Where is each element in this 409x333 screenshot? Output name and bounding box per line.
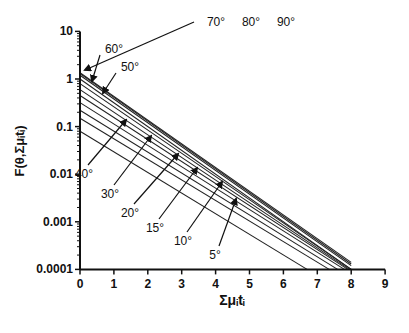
y-tick-label: 10 [60,24,74,38]
series-line [80,73,351,263]
y-tick-label: 1 [66,72,73,86]
x-tick-label: 8 [348,277,355,291]
series-line [80,74,351,264]
angle-label: 60° [105,42,123,56]
series-line [80,79,351,269]
series-line [80,75,351,265]
angle-annotations: 70°80°90°60°50°40°30°20°15°10°5° [75,15,295,262]
x-tick-label: 3 [178,277,185,291]
angle-label: 40° [75,167,93,181]
y-tick-label: 0.01 [50,167,74,181]
x-tick-label: 9 [382,277,389,291]
angle-label: 50° [121,60,139,74]
x-tick-label: 2 [144,277,151,291]
arrow-icon [219,199,236,246]
x-tick-label: 1 [111,277,118,291]
x-tick-label: 0 [77,277,84,291]
x-axis-label: Σμᵢtᵢ [219,292,245,308]
angle-label: 10° [174,234,192,248]
arrow-icon [187,182,222,232]
x-tick-label: 4 [212,277,219,291]
y-tick-label: 0.1 [56,120,73,134]
arrow-icon [92,55,100,81]
series-lines [80,73,351,270]
series-line [80,96,348,270]
x-tick-label: 7 [314,277,321,291]
arrow-icon [85,22,194,70]
arrow-icon [159,168,197,219]
y-tick-label: 0.0001 [36,262,73,276]
attenuation-chart: 01234567890.00010.0010.010.1110 70°80°90… [0,0,409,333]
angle-label: 30° [101,187,119,201]
y-axis-label: F(θ,Σμᵢtᵢ) [12,126,27,177]
angle-label: 15° [146,221,164,235]
angle-label: 5° [209,248,221,262]
series-line [80,90,350,270]
angle-label: 20° [121,206,139,220]
angle-label: 70° [207,15,225,29]
angle-label: 90° [277,15,295,29]
arrow-icon [134,154,178,204]
angle-label: 80° [242,15,260,29]
arrow-icon [103,73,116,93]
x-tick-label: 5 [246,277,253,291]
x-tick-label: 6 [280,277,287,291]
y-tick-label: 0.001 [43,215,73,229]
